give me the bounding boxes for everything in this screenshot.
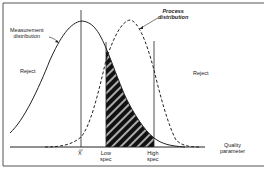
process-leader-arrow [141, 18, 158, 28]
high-spec-label: High spec [147, 150, 159, 162]
measurement-arrowhead-icon [55, 40, 59, 43]
measurement-distribution-label: Measurement distribution [10, 27, 44, 39]
low-spec-label: Low spec [100, 150, 112, 162]
label-line: distribution [158, 14, 188, 20]
label-line: spec [100, 156, 112, 162]
reject-right-label: Reject [193, 70, 209, 76]
quality-parameter-label: Quality parameter [220, 142, 245, 154]
label-line: distribution [10, 33, 44, 39]
process-distribution-label: Process distribution [158, 8, 188, 20]
measurement-distribution-curve [10, 21, 185, 147]
label-line: spec [147, 156, 159, 162]
hatched-region [106, 48, 154, 147]
label-line: parameter [220, 148, 245, 154]
x-bar-label: X [78, 150, 82, 156]
reject-left-label: Reject [20, 68, 36, 74]
process-arrowhead-icon [139, 26, 143, 29]
